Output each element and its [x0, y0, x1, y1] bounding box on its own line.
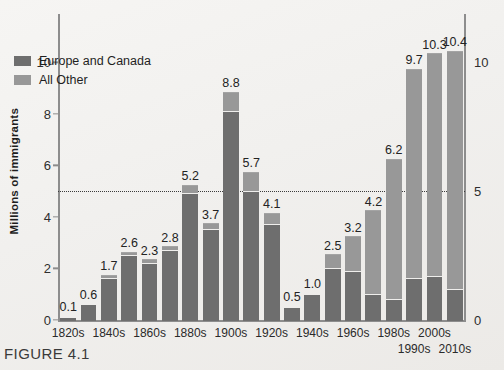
- legend-swatch-europe-canada: [14, 56, 31, 66]
- y-tick-label: 0: [44, 313, 51, 328]
- bar-1840s: [101, 277, 117, 321]
- legend-item: All Other: [14, 73, 151, 87]
- bar-segment-all-other: [406, 69, 422, 280]
- bar-1950s: [325, 256, 341, 320]
- x-tick-label-1880s: 1880s: [174, 326, 207, 340]
- bar-value-label: 3.7: [202, 208, 219, 222]
- y-tick-mark: [53, 268, 58, 269]
- chart-legend: Europe and CanadaAll Other: [14, 54, 151, 92]
- bar-segment-all-other: [182, 185, 198, 195]
- bar-segment-all-other: [243, 172, 259, 192]
- bar-segment-all-other: [101, 275, 117, 280]
- bar-segment-all-other: [142, 259, 158, 264]
- bar-segment-europe-canada: [223, 112, 239, 321]
- bar-segment-europe-canada: [304, 295, 320, 321]
- x-tick-label-1920s: 1920s: [255, 326, 288, 340]
- legend-label: Europe and Canada: [39, 54, 151, 68]
- figure-page: 0246810 0510 0.10.61.72.62.32.85.23.78.8…: [0, 0, 504, 370]
- bar-1970s: [365, 212, 381, 320]
- bar-segment-europe-canada: [427, 277, 443, 321]
- bar-1860s: [142, 261, 158, 320]
- y-tick-label: 8: [44, 106, 51, 121]
- bar-segment-europe-canada: [60, 318, 76, 321]
- y-tick-label: 6: [44, 158, 51, 173]
- x-tick-label-1840s: 1840s: [93, 326, 126, 340]
- bar-1820s: [60, 318, 76, 321]
- bar-value-label: 2.8: [161, 231, 178, 245]
- y-tick-mark: [53, 165, 58, 166]
- x-axis-line: [58, 320, 465, 322]
- bar-segment-europe-canada: [447, 290, 463, 321]
- bar-segment-europe-canada: [142, 264, 158, 321]
- bar-segment-europe-canada: [81, 305, 97, 320]
- y-tick-label-right: 5: [474, 184, 481, 199]
- bar-segment-europe-canada: [162, 251, 178, 321]
- bar-segment-all-other: [325, 254, 341, 269]
- bar-segment-all-other: [345, 236, 361, 271]
- bar-value-label: 2.6: [121, 236, 138, 250]
- bar-1890s: [203, 225, 219, 320]
- bar-segment-all-other: [203, 223, 219, 230]
- bar-segment-europe-canada: [345, 272, 361, 321]
- y-tick-mark: [53, 216, 58, 217]
- x-tick-label-1820s: 1820s: [52, 326, 85, 340]
- legend-item: Europe and Canada: [14, 54, 151, 68]
- bar-segment-all-other: [223, 92, 239, 112]
- bar-value-label: 2.5: [324, 239, 341, 253]
- bar-value-label: 4.1: [263, 197, 280, 211]
- bar-value-label: 0.1: [59, 300, 76, 314]
- bar-1910s: [243, 174, 259, 321]
- y-axis-right-line: [464, 14, 466, 322]
- x-tick-label-1980s: 1980s: [377, 326, 410, 340]
- bar-1920s: [264, 215, 280, 321]
- x-tick-label-1960s: 1960s: [337, 326, 370, 340]
- bar-segment-europe-canada: [325, 269, 341, 321]
- bar-segment-europe-canada: [182, 194, 198, 320]
- bar-segment-europe-canada: [243, 192, 259, 321]
- bar-1870s: [162, 248, 178, 320]
- legend-label: All Other: [39, 73, 88, 87]
- bar-value-label: 1.0: [304, 277, 321, 291]
- x-tick-label-2010s: 2010s: [438, 342, 471, 356]
- bar-value-label: 3.2: [344, 221, 361, 235]
- bar-segment-europe-canada: [284, 308, 300, 321]
- bar-segment-all-other: [447, 51, 463, 290]
- reference-line-5m: [58, 191, 465, 192]
- x-tick-label-1860s: 1860s: [133, 326, 166, 340]
- bar-1960s: [345, 238, 361, 320]
- bar-segment-europe-canada: [203, 230, 219, 320]
- bar-2000s: [427, 55, 443, 320]
- bar-value-label: 1.7: [100, 259, 117, 273]
- bar-value-label: 0.6: [80, 288, 97, 302]
- bar-segment-all-other: [264, 213, 280, 225]
- bar-segment-europe-canada: [101, 279, 117, 320]
- bar-1990s: [406, 71, 422, 321]
- bar-value-label: 5.2: [182, 169, 199, 183]
- y-tick-label-right: 0: [474, 313, 481, 328]
- y-tick-mark: [53, 113, 58, 114]
- bar-segment-all-other: [427, 53, 443, 277]
- bar-2010s: [447, 53, 463, 321]
- bar-value-label: 10.4: [443, 35, 467, 49]
- bar-value-label: 8.8: [222, 76, 239, 90]
- y-tick-label: 4: [44, 209, 51, 224]
- bar-value-label: 0.5: [283, 290, 300, 304]
- bar-1980s: [386, 161, 402, 321]
- bar-value-label: 6.2: [385, 143, 402, 157]
- x-tick-label-1900s: 1900s: [215, 326, 248, 340]
- x-tick-label-2000s: 2000s: [418, 326, 451, 340]
- bar-segment-europe-canada: [365, 295, 381, 321]
- bar-segment-europe-canada: [386, 300, 402, 321]
- bar-value-label: 5.7: [243, 156, 260, 170]
- bar-segment-all-other: [365, 210, 381, 294]
- bar-value-label: 4.2: [365, 195, 382, 209]
- bar-segment-all-other: [121, 252, 137, 257]
- x-tick-label-1990s: 1990s: [398, 342, 431, 356]
- bar-1900s: [223, 94, 239, 321]
- bar-segment-all-other: [386, 159, 402, 300]
- bar-value-label: 2.3: [141, 244, 158, 258]
- y-axis-title: Millions of immigrants: [8, 108, 20, 234]
- bar-1930s: [284, 308, 300, 321]
- bar-segment-all-other: [162, 246, 178, 251]
- bar-segment-europe-canada: [264, 225, 280, 320]
